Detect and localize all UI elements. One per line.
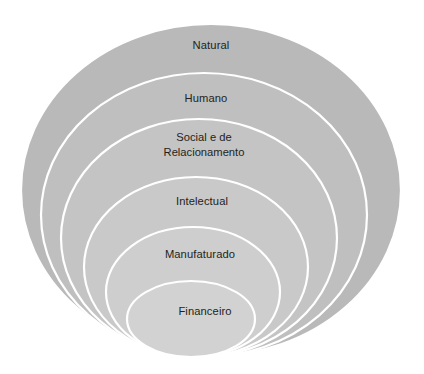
ring-label-social-line-2: Relacionamento [164,146,245,158]
ring-financeiro-shape[interactable] [127,281,255,357]
ring-label-humano: Humano [185,92,228,104]
ring-label-social-line-1: Social e de [176,131,231,143]
ring-label-financeiro: Financeiro [178,305,231,317]
nested-ellipse-diagram: Natural Humano Social e de Relacionament… [0,0,424,374]
ring-label-intelectual: Intelectual [176,195,228,207]
ring-financeiro[interactable] [127,281,255,357]
ring-label-natural: Natural [193,39,230,51]
capitals-onion-chart: Natural Humano Social e de Relacionament… [0,0,424,374]
ring-label-manufaturado: Manufaturado [165,248,235,260]
